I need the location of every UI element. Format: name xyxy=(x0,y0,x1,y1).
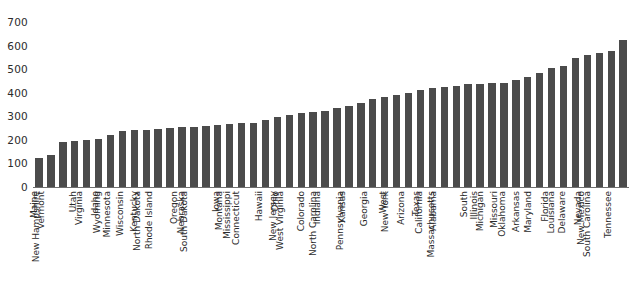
bar[interactable] xyxy=(369,99,376,187)
bar[interactable] xyxy=(59,142,66,187)
x-axis-tick-label-text: Wisconsin xyxy=(115,191,125,236)
x-axis-tick-label-text: Michigan xyxy=(475,191,485,231)
x-label-slot: New Jersey xyxy=(283,189,295,284)
x-axis-tick-label: New Hampshire xyxy=(31,120,41,191)
x-axis-labels: MaineVermontNew HampshireUtahVirginiaIda… xyxy=(33,189,629,284)
x-axis-tick-label-text: Pennsylvania xyxy=(335,191,345,250)
x-label-slot: Tennessee xyxy=(617,189,629,284)
x-axis-tick-label-text: Connecticut xyxy=(230,191,240,245)
bar-slot xyxy=(45,22,57,187)
x-axis-tick-label-text: South Dakota xyxy=(179,191,189,252)
x-axis-tick-label-text: California xyxy=(415,191,425,234)
bar[interactable] xyxy=(190,127,197,187)
bar[interactable] xyxy=(202,126,209,187)
bar-slot xyxy=(200,22,212,187)
x-axis-tick-label: South Dakota xyxy=(179,130,189,191)
x-axis-tick-label: Maryland xyxy=(522,149,532,191)
x-axis-tick-label: North Dakota xyxy=(132,131,142,191)
x-axis-tick-label: Tennessee xyxy=(603,144,613,191)
x-axis-tick-label-text: South Carolina xyxy=(582,191,592,257)
x-axis-tick-label-text: Georgia xyxy=(359,191,369,226)
bar[interactable] xyxy=(619,40,626,187)
y-axis-tick-label: 0 xyxy=(21,181,28,193)
x-axis-tick-label-text: Arkansas xyxy=(511,191,521,232)
bar[interactable] xyxy=(47,155,54,187)
x-axis-tick-label-text: North Carolina xyxy=(308,191,318,256)
y-axis-tick-label: 500 xyxy=(7,63,28,75)
bar[interactable] xyxy=(286,115,293,187)
bar[interactable] xyxy=(441,87,448,187)
bar-slot xyxy=(188,22,200,187)
x-axis-tick-label-text: South xyxy=(459,191,469,217)
x-axis-tick-label: Oklahoma xyxy=(497,145,507,191)
x-label-slot: Indiana xyxy=(319,189,331,284)
x-label-slot: Alabama xyxy=(438,189,450,284)
x-axis-tick-label-text: Oklahoma xyxy=(497,191,507,237)
bar-slot xyxy=(450,22,462,187)
x-axis-tick-label: South xyxy=(459,165,469,191)
y-axis: 0100200300400500600700 xyxy=(0,0,33,284)
x-axis-tick-label: Arkansas xyxy=(511,150,521,191)
x-axis-tick-label-text: North Dakota xyxy=(132,191,142,251)
x-axis-tick-label: South Carolina xyxy=(582,125,592,191)
x-axis-tick-label: Georgia xyxy=(359,156,369,191)
x-axis-tick-label-text: Rhode Island xyxy=(145,191,155,249)
x-axis-tick-label-text: New Hampshire xyxy=(31,191,41,262)
x-axis-tick-label: Rhode Island xyxy=(145,133,155,191)
x-axis-tick-label: Hawaii xyxy=(254,161,264,191)
y-axis-tick-label: 300 xyxy=(7,110,28,122)
x-axis-tick-label-text: Tennessee xyxy=(603,191,613,238)
x-axis-tick-label: Connecticut xyxy=(230,137,240,191)
x-axis-tick-label: West Virginia xyxy=(275,132,285,191)
x-axis-tick-label: Arizona xyxy=(395,157,405,191)
x-axis-tick-label-text: Arizona xyxy=(395,191,405,225)
x-axis-tick-label-text: Minnesota xyxy=(103,191,113,237)
x-axis-tick-label-text: Colorado xyxy=(297,191,307,231)
x-axis-tick-label: Massachusetts xyxy=(427,124,437,191)
y-axis-tick-label: 600 xyxy=(7,40,28,52)
x-axis-tick-label: Michigan xyxy=(475,151,485,191)
x-axis-tick-label: North Carolina xyxy=(308,126,318,191)
bar-slot xyxy=(617,22,629,187)
x-axis-tick-label: Pennsylvania xyxy=(335,132,345,191)
x-axis-tick-label: Virginia xyxy=(73,157,83,191)
x-axis-tick-label: Delaware xyxy=(558,149,568,191)
x-axis-tick-label-text: Virginia xyxy=(73,191,83,225)
x-axis-tick-label: Wisconsin xyxy=(115,146,125,191)
x-axis-tick-label: Minnesota xyxy=(103,145,113,191)
y-axis-tick-label: 200 xyxy=(7,134,28,146)
x-axis-tick-label-text: Hawaii xyxy=(254,191,264,221)
x-axis-tick-label-text: New York xyxy=(380,191,390,232)
x-axis-tick-label: California xyxy=(415,148,425,191)
x-axis-tick-label-text: Maryland xyxy=(522,191,532,233)
x-axis-tick-label: Colorado xyxy=(297,151,307,191)
x-axis-tick-label-text: Massachusetts xyxy=(427,191,437,258)
y-axis-tick-label: 700 xyxy=(7,16,28,28)
x-axis-tick-label: Louisiana xyxy=(546,149,556,192)
bar-chart: 0100200300400500600700 MaineVermontNew H… xyxy=(0,0,629,284)
bar[interactable] xyxy=(154,129,161,187)
y-axis-tick-label: 400 xyxy=(7,87,28,99)
bar[interactable] xyxy=(321,111,328,187)
x-axis-tick-label-text: Delaware xyxy=(558,191,568,233)
x-axis-tick-label: New York xyxy=(380,150,390,191)
x-axis-tick-label-text: West Virginia xyxy=(275,191,285,250)
bar-slot xyxy=(438,22,450,187)
x-label-slot: Nebraska xyxy=(188,189,200,284)
bar[interactable] xyxy=(596,53,603,187)
bar-slot xyxy=(57,22,69,187)
y-axis-tick-label: 100 xyxy=(7,157,28,169)
x-label-slot: Vermont xyxy=(45,189,57,284)
bar-slot xyxy=(283,22,295,187)
x-label-slot: South Dakota xyxy=(200,189,212,284)
x-axis-tick-label-text: Louisiana xyxy=(546,191,556,234)
